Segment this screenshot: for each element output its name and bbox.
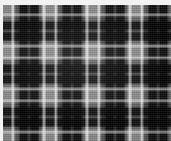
weave-texture-vertical bbox=[3, 5, 171, 141]
tartan-fabric-area bbox=[3, 5, 171, 141]
swatch-border-frame bbox=[0, 0, 171, 141]
tartan-swatch-image bbox=[0, 0, 171, 141]
